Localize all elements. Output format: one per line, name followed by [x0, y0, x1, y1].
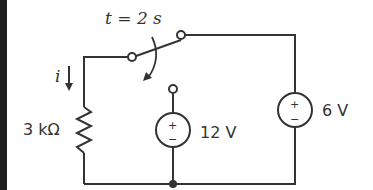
current-label: i [55, 66, 60, 86]
switch-blade [136, 40, 181, 56]
wire-left [84, 57, 128, 184]
resistor-label: 3 kΩ [23, 120, 60, 139]
source-6v-label: 6 V [322, 101, 348, 120]
node-dot [169, 180, 177, 188]
switch-time-label: t = 2 s [105, 8, 162, 28]
source-6v-plus: + [290, 98, 299, 111]
current-arrow-icon [65, 83, 73, 91]
switch-terminal-right [177, 31, 185, 39]
terminal-12v-top [169, 85, 177, 93]
source-12v-minus: − [168, 133, 177, 146]
wire-top [185, 35, 295, 93]
circuit-diagram: t = 2 s i 3 kΩ + − 12 V + − 6 V [0, 0, 373, 190]
source-12v-label: 12 V [200, 123, 236, 142]
source-6v-minus: − [290, 113, 299, 126]
switch-motion-arc [148, 37, 156, 78]
switch-terminal-left [128, 53, 136, 61]
source-12v-plus: + [168, 119, 177, 132]
resistor-3k [77, 107, 91, 153]
